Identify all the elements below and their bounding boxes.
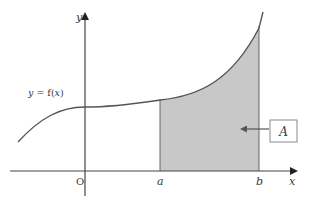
lower-bound-label: a [157, 175, 164, 188]
region-label: A [278, 125, 288, 139]
function-label: y = f(x) [27, 87, 64, 98]
x-axis-label: x [289, 175, 296, 188]
y-axis-label: y [75, 11, 83, 24]
function-label-eq: = f( [33, 87, 55, 98]
upper-bound-label: b [256, 175, 263, 188]
area-under-curve-diagram: A y x O a b y = f(x) [0, 0, 316, 201]
shaded-area-region [160, 28, 259, 171]
origin-label: O [76, 176, 84, 187]
function-label-close: ) [60, 87, 64, 98]
